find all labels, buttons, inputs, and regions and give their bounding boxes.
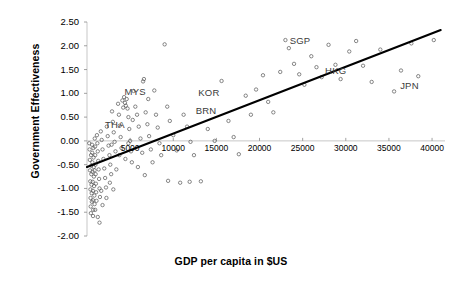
country-label-mys: MYS [125,87,146,97]
country-label-brn: BRN [196,106,217,116]
country-label-tha: THA [105,120,125,130]
country-label-jpn: JPN [400,81,419,91]
y-tick-label: 0.00 [39,136,79,145]
y-tick-label: -2.00 [39,231,79,240]
x-tick-label: 40000 [407,144,457,153]
y-tick-label: 2.00 [39,41,79,50]
y-tick-label: 1.50 [39,65,79,74]
y-tick-label: -1.50 [39,207,79,216]
y-tick-label: 2.50 [39,17,79,26]
y-tick-label: -1.00 [39,183,79,192]
scatter-chart: Government Effectiveness GDP per capita … [0,0,462,282]
y-tick-label: 0.50 [39,112,79,121]
country-label-sgp: SGP [290,36,311,46]
country-label-kor: KOR [198,88,219,98]
y-tick-label: -0.50 [39,160,79,169]
y-tick-label: 1.00 [39,88,79,97]
country-label-hkg: HKG [325,66,346,76]
